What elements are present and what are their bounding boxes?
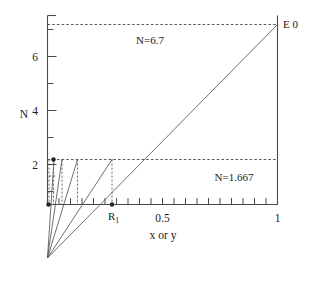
- marker-r1: [110, 202, 114, 206]
- y-ticks-group: [48, 30, 57, 192]
- annotation-e-zero: E 0: [283, 18, 298, 30]
- annotation-r-one: R1: [108, 210, 119, 225]
- ray-2: [48, 160, 63, 259]
- chart-canvas: 6 4 2 N 0.5 1 x or y N=6.7 N=1.667 E 0 R…: [0, 0, 311, 281]
- x-axis-title: x or y: [150, 229, 177, 242]
- x-ticks-group: [59, 198, 266, 205]
- x-tick-label-0-5: 0.5: [155, 212, 170, 224]
- marker-intersect-top: [51, 157, 55, 161]
- y-axis-title: N: [20, 108, 29, 120]
- labels-group: 6 4 2 N 0.5 1 x or y N=6.7 N=1.667 E 0 R…: [20, 18, 299, 242]
- ray-1: [48, 160, 55, 259]
- y-tick-label-4: 4: [32, 105, 38, 117]
- x-tick-label-1: 1: [275, 212, 281, 224]
- marker-origin-axis: [46, 202, 50, 206]
- y-tick-label-6: 6: [32, 51, 38, 63]
- chart-figure: 6 4 2 N 0.5 1 x or y N=6.7 N=1.667 E 0 R…: [0, 0, 311, 281]
- annotation-r-one-subscript: 1: [115, 216, 119, 225]
- annotation-n-1-667: N=1.667: [215, 171, 254, 183]
- annotation-n-6-7: N=6.7: [136, 34, 164, 46]
- ray-4: [48, 160, 113, 259]
- y-tick-label-2: 2: [32, 159, 38, 171]
